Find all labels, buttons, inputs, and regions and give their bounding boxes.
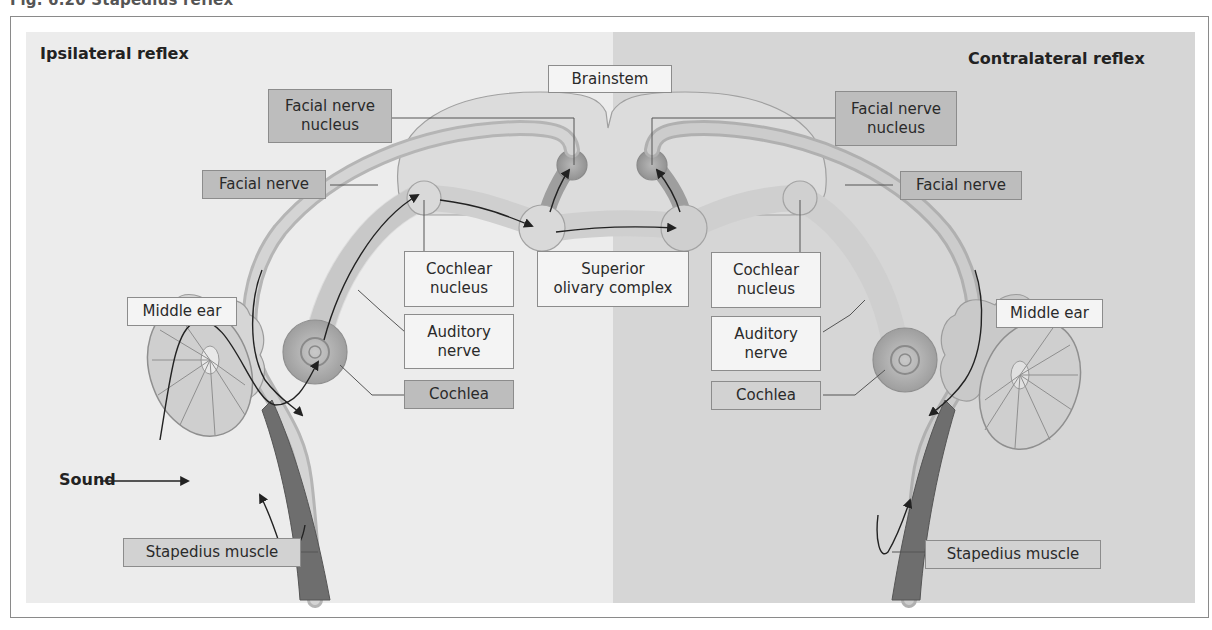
label-right-facial-nerve: Facial nerve xyxy=(900,171,1022,200)
label-left-cochlear-nucleus: Cochlear nucleus xyxy=(404,251,514,307)
label-superior-olivary-complex: Superior olivary complex xyxy=(537,251,689,307)
label-right-auditory-nerve: Auditory nerve xyxy=(711,316,821,371)
cochlea-right xyxy=(873,328,937,392)
label-right-cochlea: Cochlea xyxy=(711,381,821,410)
label-left-middle-ear: Middle ear xyxy=(127,297,237,326)
contralateral-heading: Contralateral reflex xyxy=(968,49,1145,68)
label-sound: Sound xyxy=(59,470,116,489)
ipsilateral-heading: Ipsilateral reflex xyxy=(40,44,189,63)
cochlea-left xyxy=(283,320,347,384)
label-right-facial-nerve-nucleus: Facial nerve nucleus xyxy=(835,91,957,146)
label-left-auditory-nerve: Auditory nerve xyxy=(404,314,514,369)
label-left-facial-nerve-nucleus: Facial nerve nucleus xyxy=(268,89,392,143)
label-right-stapedius-muscle: Stapedius muscle xyxy=(925,540,1101,569)
label-left-stapedius-muscle: Stapedius muscle xyxy=(123,538,301,567)
label-right-cochlear-nucleus: Cochlear nucleus xyxy=(711,252,821,308)
label-right-middle-ear: Middle ear xyxy=(996,299,1103,328)
label-left-facial-nerve: Facial nerve xyxy=(202,170,326,199)
label-left-cochlea: Cochlea xyxy=(404,380,514,409)
label-brainstem: Brainstem xyxy=(548,65,672,93)
